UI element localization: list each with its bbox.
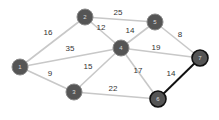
node-5: 5 xyxy=(147,14,163,30)
edge-weight-label: 25 xyxy=(114,8,123,17)
node-6: 6 xyxy=(150,91,166,107)
edge-weight-label: 12 xyxy=(97,23,106,32)
edge-2-5 xyxy=(85,17,155,22)
node-7: 7 xyxy=(192,50,208,66)
node-1: 1 xyxy=(12,59,28,75)
edge-weight-label: 9 xyxy=(48,69,53,78)
edge-weight-label: 16 xyxy=(44,28,53,37)
weighted-graph: 1635925121522141917814 1234567 xyxy=(0,0,219,120)
edge-weight-label: 14 xyxy=(167,69,176,78)
edge-weight-label: 35 xyxy=(66,44,75,53)
edge-3-6 xyxy=(74,92,158,99)
edge-6-7 xyxy=(158,58,200,99)
edge-weight-label: 19 xyxy=(152,43,161,52)
edge-weight-label: 14 xyxy=(126,26,135,35)
edge-weight-label: 22 xyxy=(109,84,118,93)
node-3: 3 xyxy=(66,84,82,100)
edge-weight-label: 17 xyxy=(134,66,143,75)
edge-weight-label: 15 xyxy=(84,62,93,71)
edge-1-2 xyxy=(20,17,85,67)
edge-weight-label: 8 xyxy=(178,30,183,39)
node-2: 2 xyxy=(77,9,93,25)
node-4: 4 xyxy=(113,40,129,56)
